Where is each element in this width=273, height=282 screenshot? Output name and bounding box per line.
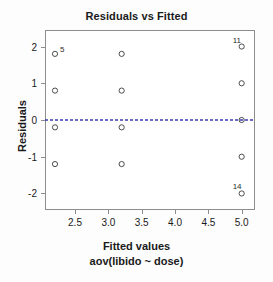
y-tick-mark (41, 83, 45, 84)
data-point (239, 81, 244, 86)
x-axis-title: Fitted values (0, 240, 273, 252)
x-tick-label: 2.5 (68, 217, 82, 228)
data-point (119, 161, 124, 166)
x-tick-label: 3.0 (101, 217, 115, 228)
x-tick-label: 4.0 (168, 217, 182, 228)
y-axis-title: Residuals (16, 81, 28, 171)
data-point (52, 51, 57, 56)
data-point (239, 44, 244, 49)
data-point (52, 88, 57, 93)
x-tick-mark (242, 210, 243, 214)
data-point (119, 88, 124, 93)
data-point (239, 154, 244, 159)
data-point (119, 51, 124, 56)
chart-title: Residuals vs Fitted (0, 10, 273, 22)
x-tick-mark (175, 210, 176, 214)
y-tick-mark (41, 157, 45, 158)
point-id-label: 14 (233, 182, 242, 191)
y-tick-label: 2 (9, 41, 37, 52)
residual-plot-figure: Residuals vs Fitted 210-1-2 2.53.03.54.0… (0, 0, 273, 282)
x-tick-mark (208, 210, 209, 214)
x-tick-label: 3.5 (135, 217, 149, 228)
x-tick-label: 4.5 (201, 217, 215, 228)
plot-canvas (45, 30, 255, 210)
x-tick-mark (142, 210, 143, 214)
point-id-label: 5 (60, 45, 64, 54)
x-axis-subtitle: aov(libido ~ dose) (0, 255, 273, 267)
x-tick-mark (108, 210, 109, 214)
data-point (52, 125, 57, 130)
y-tick-mark (41, 47, 45, 48)
x-tick-label: 5.0 (235, 217, 249, 228)
point-id-label: 11 (233, 36, 241, 45)
data-point (52, 161, 57, 166)
data-point (119, 125, 124, 130)
data-point (239, 191, 244, 196)
y-tick-mark (41, 193, 45, 194)
y-tick-mark (41, 120, 45, 121)
y-tick-label: -2 (9, 188, 37, 199)
x-tick-mark (75, 210, 76, 214)
